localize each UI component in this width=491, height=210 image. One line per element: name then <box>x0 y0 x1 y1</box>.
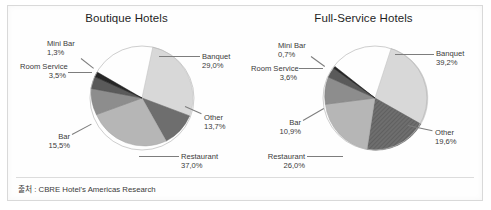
label-restaurant: Restaurant 26,0% <box>249 152 305 171</box>
pie-chart-full-service-hotels <box>323 46 427 150</box>
leader-line-room-service <box>68 72 92 73</box>
pie-svg-full-service <box>323 46 427 150</box>
leader-line-bar <box>303 108 324 121</box>
label-room-service: Room Service 3,6% <box>251 64 297 83</box>
leader-line-restaurant <box>307 156 343 157</box>
pie-svg-boutique <box>90 46 194 150</box>
pie-slice-restaurant <box>325 98 375 149</box>
chart-panel-full-service-hotels: Full-Service Hotels <box>245 6 482 200</box>
leader-line-room-service <box>299 68 323 69</box>
leader-line-banquet <box>159 56 200 57</box>
label-banquet: Banquet 39,2% <box>436 49 464 68</box>
label-room-service: Room Service 3,5% <box>20 62 66 81</box>
chart-title-boutique-hotels: Boutique Hotels <box>8 12 245 24</box>
chart-title-full-service-hotels: Full-Service Hotels <box>245 12 482 24</box>
footer-divider <box>16 177 474 178</box>
label-bar: Bar 15,5% <box>28 132 70 151</box>
label-other: Other 19,6% <box>435 128 457 147</box>
label-restaurant: Restaurant 37,0% <box>181 152 218 171</box>
label-mini-bar: Mini Bar 0,7% <box>278 41 306 60</box>
leader-line-banquet <box>395 54 434 55</box>
figure-frame: Boutique Hotels Mini Bar 1,3% Room Servi… <box>7 5 483 201</box>
leader-line-bar <box>72 124 92 135</box>
label-mini-bar: Mini Bar 1,3% <box>47 39 75 58</box>
leader-line-restaurant <box>139 156 179 157</box>
source-attribution: 출처 : CBRE Hotel's Americas Research <box>18 183 156 194</box>
label-banquet: Banquet 29,0% <box>202 52 230 71</box>
pie-chart-boutique-hotels <box>90 46 194 150</box>
chart-panel-boutique-hotels: Boutique Hotels Mini Bar 1,3% Room Servi… <box>8 6 245 200</box>
label-other: Other 13,7% <box>204 113 226 132</box>
label-bar: Bar 10,9% <box>259 118 301 137</box>
